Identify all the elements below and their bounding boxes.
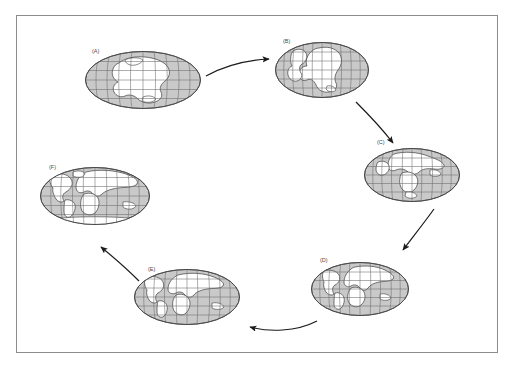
globe-b: (B) — [275, 42, 369, 98]
globe-d-landmass-africa — [348, 287, 365, 307]
globe-e-label: (E) — [148, 267, 155, 273]
globe-e-landmass-africa — [173, 294, 190, 315]
globe-e: (E) — [134, 269, 240, 325]
globe-f-label: (F) — [49, 165, 56, 171]
figure-root: (A) — [0, 0, 517, 369]
globe-d: (D) — [311, 262, 409, 316]
globe-f-landmass-greenland — [73, 171, 85, 177]
globe-c-label: (C) — [377, 140, 385, 146]
globe-a: (A) — [85, 51, 201, 109]
globe-d-label: (D) — [320, 258, 328, 264]
globe-b-label: (B) — [283, 39, 290, 45]
globe-a-label: (A) — [92, 49, 99, 55]
globe-c: (C) — [364, 148, 460, 202]
globe-f: (F) — [40, 167, 150, 225]
